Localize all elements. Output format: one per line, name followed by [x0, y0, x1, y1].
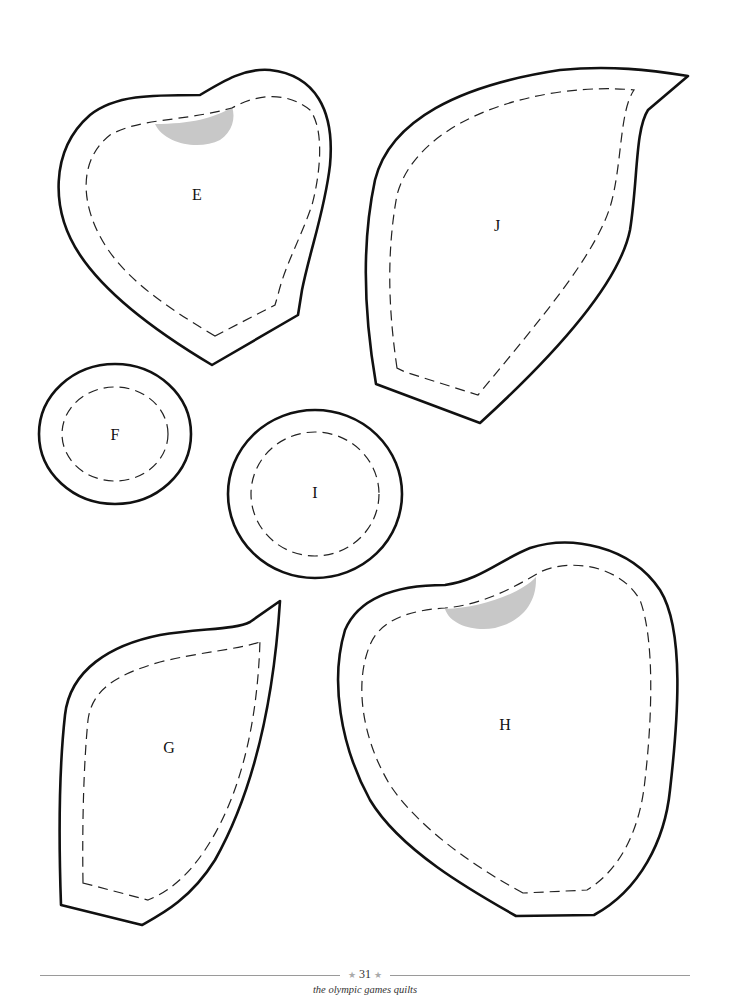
- star-icon: ★: [371, 970, 385, 980]
- template-label-i: I: [312, 484, 317, 502]
- template-label-h: H: [499, 716, 511, 734]
- page-number: ★31★: [345, 967, 385, 982]
- template-label-j: J: [494, 217, 500, 235]
- template-label-f: F: [111, 426, 120, 444]
- template-page: E J F I G H ★31★ the olympic games quilt…: [0, 0, 729, 999]
- star-icon: ★: [345, 970, 359, 980]
- template-piece-j: [366, 68, 688, 423]
- template-artwork: [0, 0, 729, 999]
- book-title: the olympic games quilts: [313, 984, 417, 995]
- footer-rule-right: [390, 975, 690, 976]
- page-number-value: 31: [359, 967, 371, 981]
- template-piece-g: [60, 601, 280, 925]
- cut-line-j: [366, 68, 688, 423]
- template-label-g: G: [163, 739, 175, 757]
- template-label-e: E: [192, 186, 202, 204]
- footer-rule-left: [40, 975, 340, 976]
- template-piece-e: [59, 70, 331, 365]
- cut-line-e: [59, 70, 331, 365]
- cut-line-g: [60, 601, 280, 925]
